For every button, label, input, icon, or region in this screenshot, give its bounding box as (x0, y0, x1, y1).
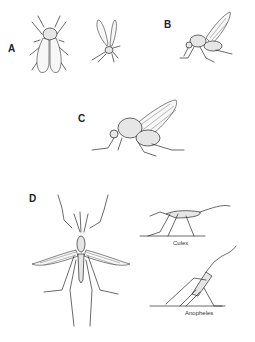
fly-c-side-illustration (92, 100, 184, 156)
insect-illustration-figure: A B C D Culex Anopheles (0, 0, 255, 342)
midge-flying-illustration (92, 20, 120, 62)
culex-resting-illustration (140, 205, 230, 236)
mosquito-dorsal-illustration (32, 195, 130, 326)
fly-dorsal-illustration (30, 16, 68, 73)
insect-drawings (0, 0, 255, 342)
anopheles-resting-illustration (150, 246, 236, 306)
fly-b-side-illustration (180, 12, 232, 62)
